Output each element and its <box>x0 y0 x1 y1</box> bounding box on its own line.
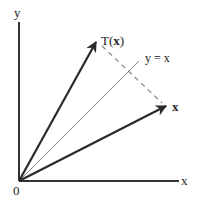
origin-label: 0 <box>13 183 20 198</box>
line-label: y = x <box>145 51 170 65</box>
line-y-equals-x <box>19 61 139 181</box>
transform-prefix: T( <box>101 33 113 48</box>
x-axis-label: x <box>181 173 188 188</box>
y-axis-label: y <box>14 5 21 20</box>
reflection-diagram: y x 0 T(x) y = x x <box>0 0 198 205</box>
vector-x-label: x <box>172 99 179 114</box>
vector-x <box>19 106 166 181</box>
diagram-svg: y x 0 T(x) y = x x <box>0 0 198 205</box>
transform-label: T(x) <box>101 33 124 48</box>
transform-suffix: ) <box>120 33 124 48</box>
